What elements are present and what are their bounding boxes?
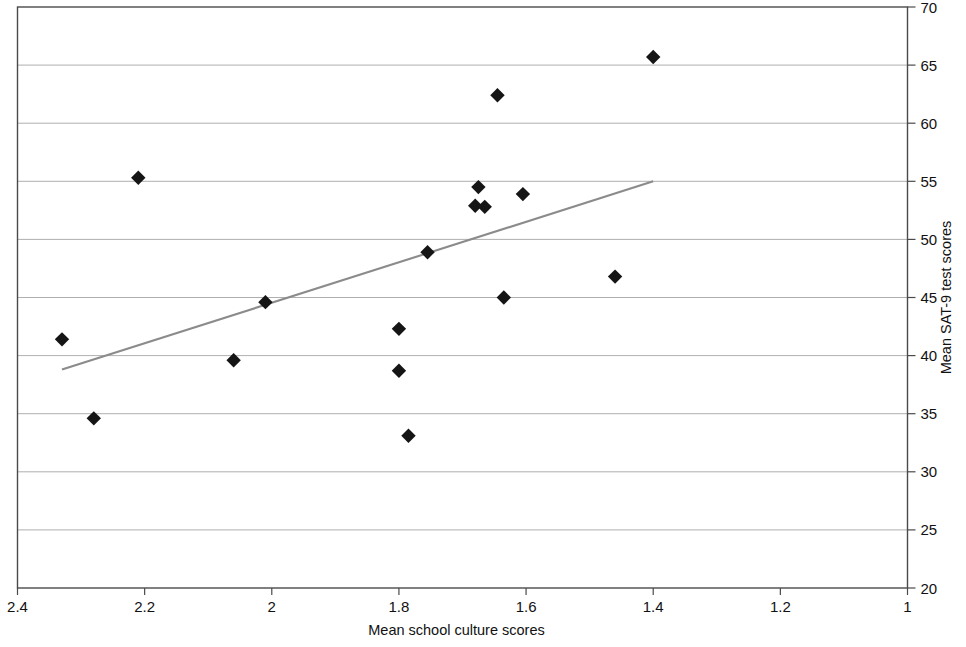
ytick-label-55: 55 bbox=[921, 173, 938, 190]
data-point-15 bbox=[608, 269, 622, 283]
scatter-chart-figure: 20253035404550556065702.42.221.81.61.41.… bbox=[0, 0, 966, 647]
data-point-2 bbox=[131, 171, 145, 185]
ytick-label-25: 25 bbox=[921, 521, 938, 538]
data-point-9 bbox=[471, 180, 485, 194]
ytick-label-50: 50 bbox=[921, 231, 938, 248]
chart-canvas: 20253035404550556065702.42.221.81.61.41.… bbox=[0, 0, 966, 647]
ytick-label-60: 60 bbox=[921, 115, 938, 132]
data-point-12 bbox=[490, 88, 504, 102]
xtick-label-2: 2 bbox=[268, 598, 276, 615]
ytick-label-30: 30 bbox=[921, 463, 938, 480]
data-point-0 bbox=[55, 332, 69, 346]
data-point-16 bbox=[646, 50, 660, 64]
data-point-11 bbox=[478, 200, 492, 214]
xtick-label-1: 1 bbox=[903, 598, 911, 615]
xtick-label-2.2: 2.2 bbox=[134, 598, 155, 615]
data-point-8 bbox=[420, 245, 434, 259]
data-point-6 bbox=[392, 364, 406, 378]
ytick-label-45: 45 bbox=[921, 289, 938, 306]
ytick-label-20: 20 bbox=[921, 580, 938, 597]
data-point-14 bbox=[516, 187, 530, 201]
xtick-label-1.2: 1.2 bbox=[770, 598, 791, 615]
ytick-label-70: 70 bbox=[921, 0, 938, 16]
ytick-label-65: 65 bbox=[921, 57, 938, 74]
ytick-label-35: 35 bbox=[921, 405, 938, 422]
x-axis-title: Mean school culture scores bbox=[368, 622, 545, 638]
xtick-label-1.8: 1.8 bbox=[388, 598, 409, 615]
trendline bbox=[62, 181, 653, 369]
xtick-label-1.6: 1.6 bbox=[516, 598, 537, 615]
y-axis-title: Mean SAT-9 test scores bbox=[938, 221, 954, 375]
data-point-5 bbox=[392, 322, 406, 336]
xtick-label-1.4: 1.4 bbox=[643, 598, 664, 615]
xtick-label-2.4: 2.4 bbox=[7, 598, 28, 615]
ytick-label-40: 40 bbox=[921, 347, 938, 364]
data-point-7 bbox=[401, 429, 415, 443]
data-point-13 bbox=[497, 290, 511, 304]
